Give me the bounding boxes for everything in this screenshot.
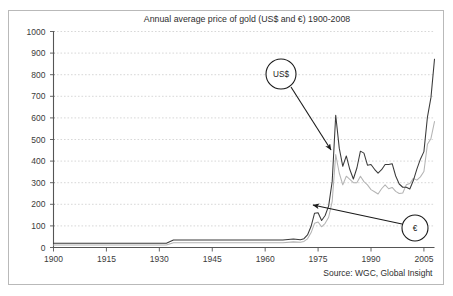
series-line-eur — [54, 122, 435, 245]
annotation-label-eur: € — [413, 224, 418, 233]
y-axis-tick-label: 800 — [31, 70, 45, 80]
x-axis-tick-label: 1930 — [150, 254, 169, 264]
annotation-label-usd: US$ — [273, 70, 289, 79]
x-axis-tick-label: 1990 — [362, 254, 381, 264]
x-axis-tick-label: 1975 — [309, 254, 328, 264]
y-axis-tick-label: 700 — [31, 91, 45, 101]
y-axis-tick-label: 100 — [31, 221, 45, 231]
x-axis-tick-label: 1900 — [44, 254, 63, 264]
figure-root: Annual average price of gold (US$ and €)… — [0, 0, 453, 296]
source-note: Source: WGC, Global Insight — [323, 268, 433, 278]
y-axis-tick-label: 200 — [31, 199, 45, 209]
y-axis-tick-label: 0 — [41, 243, 46, 253]
series-line-usd — [54, 59, 435, 243]
x-axis-tick-label: 1945 — [203, 254, 222, 264]
x-axis-tick-label: 1960 — [256, 254, 275, 264]
y-axis-tick-label: 500 — [31, 135, 45, 145]
y-axis-tick-label: 300 — [31, 178, 45, 188]
gold-price-line-chart: Annual average price of gold (US$ and €)… — [0, 0, 453, 296]
x-axis-tick-label: 1915 — [97, 254, 116, 264]
chart-title: Annual average price of gold (US$ and €)… — [144, 14, 350, 24]
annotation-arrow-usd — [291, 87, 331, 150]
x-axis-tick-label: 2005 — [414, 254, 433, 264]
y-axis-tick-label: 1000 — [27, 27, 46, 37]
y-axis-tick-label: 600 — [31, 113, 45, 123]
y-axis-tick-label: 400 — [31, 156, 45, 166]
y-axis-tick-label: 900 — [31, 48, 45, 58]
